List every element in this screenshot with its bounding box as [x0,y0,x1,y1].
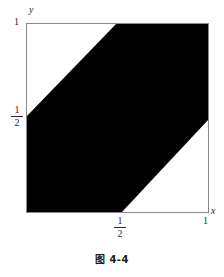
x-tick-half-numerator: 1 [114,216,126,227]
y-tick-label-one-half: 1 2 [11,105,23,128]
plot-area [26,23,209,213]
y-tick-half-numerator: 1 [11,105,23,116]
x-tick-half-denominator: 2 [114,229,126,240]
x-axis-label: x [211,206,215,216]
figure-container: y x 1 1 2 1 2 1 图 4-4 [0,0,224,277]
plot-svg [26,23,209,213]
x-tick-label-one-half: 1 2 [114,216,126,239]
y-tick-label-one: 1 [14,17,19,27]
y-tick-half-denominator: 2 [11,118,23,129]
figure-caption: 图 4-4 [0,254,224,266]
x-tick-label-one: 1 [203,216,208,226]
y-axis-label: y [29,5,33,15]
